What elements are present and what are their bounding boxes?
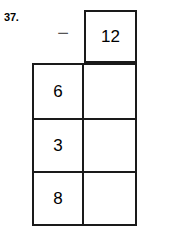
minuend-value-1: 6 bbox=[53, 83, 62, 100]
answer-grid: 6 3 8 bbox=[32, 63, 137, 226]
minuend-value-2: 3 bbox=[53, 137, 62, 154]
subtraction-worksheet-problem: 37. − 12 6 3 8 bbox=[0, 0, 175, 237]
minus-sign-icon: − bbox=[50, 22, 76, 44]
subtrahend-cell: 12 bbox=[84, 10, 137, 63]
answer-cell-2[interactable] bbox=[84, 118, 135, 171]
answer-cell-3[interactable] bbox=[84, 171, 135, 224]
minuend-cell-3: 8 bbox=[34, 171, 84, 224]
answer-cell-1[interactable] bbox=[84, 65, 135, 118]
minuend-cell-2: 3 bbox=[34, 118, 84, 171]
minuend-cell-1: 6 bbox=[34, 65, 84, 118]
subtrahend-value: 12 bbox=[101, 28, 120, 45]
minuend-value-3: 8 bbox=[53, 190, 62, 207]
problem-number-label: 37. bbox=[4, 10, 19, 24]
